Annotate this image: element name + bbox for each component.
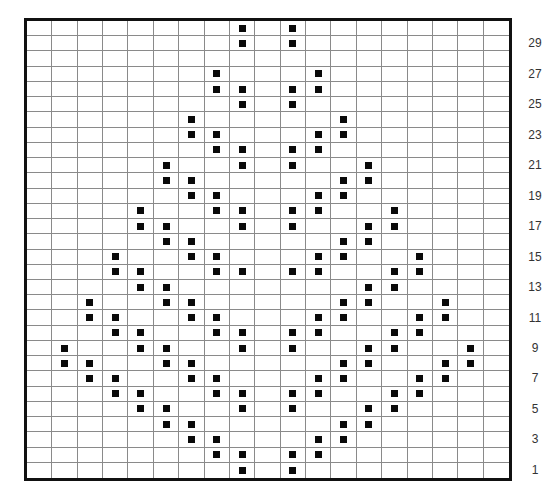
empty-cell [331,463,356,478]
empty-cell [255,112,280,127]
empty-cell [154,143,179,158]
empty-cell [357,326,382,341]
empty-cell [27,97,52,112]
empty-cell [128,143,153,158]
empty-cell [205,219,230,234]
filled-stitch-cell [230,402,255,417]
empty-cell [154,432,179,447]
empty-cell [458,219,483,234]
empty-cell [154,204,179,219]
row-label: 1 [520,463,550,478]
empty-cell [27,204,52,219]
empty-cell [128,295,153,310]
empty-cell [128,356,153,371]
empty-cell [27,189,52,204]
empty-cell [230,280,255,295]
filled-stitch-cell [306,250,331,265]
empty-cell [433,189,458,204]
filled-stitch-cell [433,310,458,325]
empty-cell [331,204,356,219]
empty-cell [27,371,52,386]
empty-cell [458,143,483,158]
empty-cell [484,21,509,36]
empty-cell [382,295,407,310]
empty-cell [52,143,77,158]
empty-cell [154,463,179,478]
empty-cell [230,51,255,66]
empty-cell [484,234,509,249]
filled-stitch-cell [281,204,306,219]
empty-cell [306,234,331,249]
empty-cell [103,234,128,249]
empty-cell [27,310,52,325]
empty-cell [27,158,52,173]
empty-cell [52,36,77,51]
empty-cell [205,21,230,36]
filled-stitch-cell [281,82,306,97]
empty-cell [458,280,483,295]
filled-stitch-cell [128,341,153,356]
filled-stitch-cell [306,204,331,219]
empty-cell [458,250,483,265]
row-number-labels: 1357911131517192123252729 [520,18,560,481]
empty-cell [382,189,407,204]
empty-cell [255,158,280,173]
empty-cell [357,265,382,280]
empty-cell [408,432,433,447]
empty-cell [281,356,306,371]
empty-cell [281,280,306,295]
empty-cell [103,432,128,447]
empty-cell [433,280,458,295]
empty-cell [103,189,128,204]
empty-cell [484,67,509,82]
empty-cell [27,173,52,188]
empty-cell [52,448,77,463]
empty-cell [382,463,407,478]
empty-cell [458,234,483,249]
empty-cell [433,387,458,402]
empty-cell [382,143,407,158]
filled-stitch-cell [103,387,128,402]
empty-cell [484,82,509,97]
filled-stitch-cell [408,326,433,341]
filled-stitch-cell [357,295,382,310]
empty-cell [484,158,509,173]
empty-cell [331,143,356,158]
empty-cell [52,402,77,417]
empty-cell [103,219,128,234]
empty-cell [357,432,382,447]
filled-stitch-cell [281,158,306,173]
empty-cell [306,219,331,234]
empty-cell [27,326,52,341]
empty-cell [103,173,128,188]
empty-cell [484,265,509,280]
filled-stitch-cell [128,326,153,341]
filled-stitch-cell [230,143,255,158]
empty-cell [27,432,52,447]
empty-cell [382,36,407,51]
row-label: 3 [520,432,550,447]
filled-stitch-cell [52,356,77,371]
filled-stitch-cell [458,341,483,356]
empty-cell [433,51,458,66]
empty-cell [78,250,103,265]
filled-stitch-cell [306,189,331,204]
empty-cell [382,371,407,386]
empty-cell [433,234,458,249]
empty-cell [357,36,382,51]
empty-cell [78,417,103,432]
empty-cell [357,128,382,143]
empty-cell [128,234,153,249]
empty-cell [382,234,407,249]
filled-stitch-cell [179,250,204,265]
filled-stitch-cell [408,371,433,386]
empty-cell [484,250,509,265]
empty-cell [103,51,128,66]
empty-cell [382,21,407,36]
filled-stitch-cell [128,265,153,280]
empty-cell [382,158,407,173]
filled-stitch-cell [230,36,255,51]
empty-cell [128,128,153,143]
empty-cell [52,204,77,219]
row-label: 11 [520,311,550,326]
